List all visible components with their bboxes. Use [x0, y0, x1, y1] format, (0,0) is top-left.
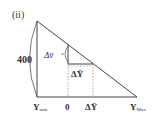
- triangle-diagram: (ii) 400 Δv̄ ΔȲ Ymin 0 ΔȲ YMax: [0, 0, 158, 124]
- height-label: 400: [17, 54, 32, 65]
- delta-y-inner-label: ΔȲ: [71, 69, 84, 79]
- y-min-label: Ymin: [33, 102, 48, 112]
- figure-label: (ii): [12, 9, 24, 21]
- delta-v-label: Δv̄: [43, 50, 54, 60]
- y-max-label: YMax: [130, 102, 146, 112]
- zero-label: 0: [65, 102, 70, 112]
- delta-y-axis-label: ΔȲ: [85, 102, 98, 112]
